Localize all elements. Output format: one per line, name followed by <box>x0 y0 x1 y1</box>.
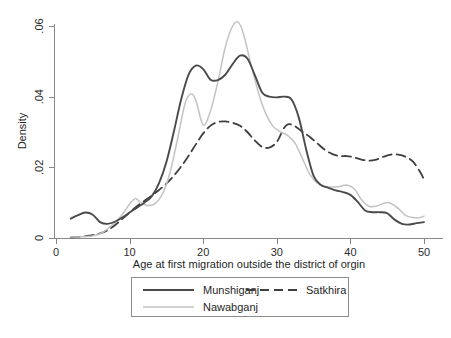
x-tick-label: 40 <box>344 246 356 258</box>
x-tick-label: 30 <box>271 246 283 258</box>
y-axis-title: Density <box>16 112 28 149</box>
legend-label-nawabganj: Nawabganj <box>203 301 258 313</box>
y-tick-label: 0 <box>33 235 45 241</box>
x-axis-title: Age at first migration outside the distr… <box>133 258 365 270</box>
x-tick-label: 20 <box>197 246 209 258</box>
legend-label-satkhira: Satkhira <box>306 284 347 296</box>
y-tick-label: .06 <box>33 18 45 33</box>
y-tick-label: .02 <box>33 160 45 175</box>
legend: MunshiganjSatkhiraNawabganj <box>132 278 349 317</box>
x-tick-label: 10 <box>123 246 135 258</box>
x-tick-label: 0 <box>53 246 59 258</box>
density-plot-figure: 0.02.04.06 Density 01020304050 Age at fi… <box>0 0 451 338</box>
x-tick-label: 50 <box>418 246 430 258</box>
chart-canvas: 0.02.04.06 Density 01020304050 Age at fi… <box>0 0 451 338</box>
y-tick-label: .04 <box>33 89 45 104</box>
